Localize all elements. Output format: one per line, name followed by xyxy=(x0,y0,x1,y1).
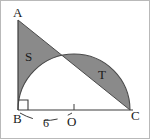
geometry-figure: A B C O S T 6 xyxy=(0,0,150,139)
label-center-o: O xyxy=(67,114,76,129)
label-region-s: S xyxy=(25,49,32,64)
label-vertex-b: B xyxy=(13,111,22,126)
label-vertex-a: A xyxy=(13,5,23,20)
geometry-canvas: A B C O S T 6 xyxy=(0,0,150,139)
label-vertex-c: C xyxy=(131,108,140,123)
label-region-t: T xyxy=(98,67,106,82)
label-measure-bo: 6 xyxy=(43,116,49,130)
